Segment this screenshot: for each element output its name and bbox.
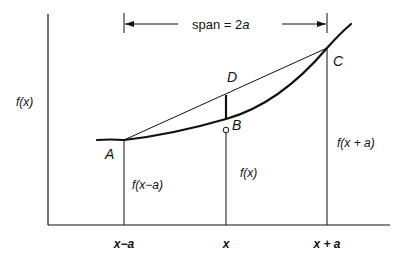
label-f-x-minus-a: f(x−a) xyxy=(132,178,163,192)
chord-ac xyxy=(124,48,327,140)
point-label-d: D xyxy=(227,69,237,85)
x-tick-x: x xyxy=(222,237,231,251)
point-label-b: B xyxy=(232,117,241,133)
label-f-x-plus-a: f(x + a) xyxy=(337,136,375,150)
secant-approximation-diagram: span = 2a A B C D f(x) f(x−a) f(x) f(x +… xyxy=(0,0,401,263)
function-curve xyxy=(97,24,351,140)
x-tick-x-plus-a: x + a xyxy=(312,237,340,251)
label-f-x: f(x) xyxy=(240,166,257,180)
y-axis-label: f(x) xyxy=(16,95,33,109)
x-tick-x-minus-a: x−a xyxy=(113,237,135,251)
point-label-a: A xyxy=(104,146,114,162)
point-marker-circle xyxy=(223,127,229,133)
span-label: span = 2a xyxy=(192,17,249,32)
point-label-c: C xyxy=(333,53,344,69)
